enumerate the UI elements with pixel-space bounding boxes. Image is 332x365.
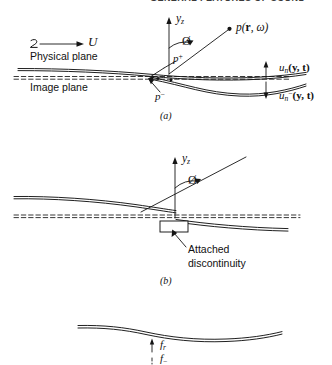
image-plane-label-a: Image plane xyxy=(30,82,88,93)
axis-y-arrowhead-a xyxy=(166,17,171,24)
f-lower-label-c: f− xyxy=(160,353,167,365)
flow-hook-glyph-a xyxy=(30,40,37,48)
angle-label-phi-a: Ø xyxy=(182,35,191,47)
surface-dot-2-a xyxy=(170,78,173,81)
attached-discontinuity-line1-b: Attached xyxy=(188,244,229,255)
surface-dot-1-a xyxy=(157,77,160,80)
observer-label-a: p(r, ω) xyxy=(236,22,268,34)
attached-discontinuity-box-b xyxy=(160,221,188,232)
f-upper-arrow-head-c xyxy=(150,339,154,345)
p-plus-label-a: p+ xyxy=(173,53,183,64)
attached-discontinuity-line2-b: discontinuity xyxy=(188,258,246,269)
u-lower-label-a: un−(y, t) xyxy=(279,90,314,102)
surface-lower-left-b xyxy=(14,199,176,213)
surface-lower-c xyxy=(78,328,282,342)
surface-lower-right-b xyxy=(176,222,288,231)
panel-caption-b: (b) xyxy=(160,276,172,286)
flow-label-u-a: U xyxy=(88,35,97,48)
surface-upper-c xyxy=(78,325,282,339)
p-minus-label-a: p− xyxy=(155,91,165,102)
u-lower-arrow-head-a xyxy=(264,93,269,99)
panel-caption-a: (a) xyxy=(160,111,172,121)
figure-page: GENERAL FEATURES OF SOUND xyxy=(0,0,332,365)
u-upper-arrow-head-a xyxy=(264,61,269,67)
axis-y-arrowhead-b xyxy=(172,157,177,164)
axis-label-yz-a: yz xyxy=(176,13,184,26)
axis-label-yz-b: yz xyxy=(182,153,190,166)
u-upper-label-a: un(y, t) xyxy=(279,62,310,74)
observer-point-a xyxy=(227,27,231,31)
annotation-leader-b xyxy=(174,233,186,247)
flow-arrow-head-a xyxy=(77,41,85,47)
f-upper-label-c: fr xyxy=(160,339,166,351)
physical-plane-label-a: Physical plane xyxy=(30,51,98,62)
angle-label-phi-b: Ø xyxy=(188,174,197,186)
